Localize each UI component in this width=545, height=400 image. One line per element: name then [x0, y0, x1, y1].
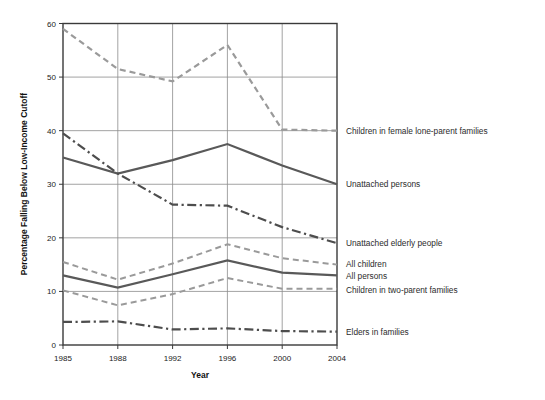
- series-label: Unattached elderly people: [346, 238, 443, 248]
- chart-figure: 0102030405060 198519881992199620002004 C…: [0, 0, 545, 400]
- y-tick-label: 0: [52, 341, 57, 350]
- y-tick-label: 50: [47, 73, 56, 82]
- x-tick-label: 2004: [328, 354, 346, 363]
- series-lines: [63, 29, 337, 332]
- y-tick-label: 10: [47, 287, 56, 296]
- x-tick-label: 1985: [54, 354, 72, 363]
- series-label: Unattached persons: [346, 179, 420, 189]
- series-line: [63, 144, 337, 184]
- y-tick-label: 30: [47, 180, 56, 189]
- x-axis-title: Year: [191, 370, 210, 380]
- x-tick-label: 1996: [219, 354, 237, 363]
- series-line: [63, 133, 337, 243]
- series-label: All persons: [346, 271, 387, 281]
- y-tick-labels: 0102030405060: [47, 20, 63, 351]
- series-label: Children in female lone-parent families: [346, 126, 488, 136]
- y-tick-label: 20: [47, 234, 56, 243]
- x-tick-label: 1992: [164, 354, 182, 363]
- series-line: [63, 260, 337, 287]
- x-tick-label: 1988: [109, 354, 127, 363]
- series-label: Children in two-parent families: [346, 285, 458, 295]
- series-line: [63, 321, 337, 331]
- x-tick-label: 2000: [273, 354, 291, 363]
- series-label: Elders in families: [346, 327, 409, 337]
- series-line: [63, 29, 337, 131]
- gridlines: [63, 24, 337, 346]
- y-tick-label: 40: [47, 127, 56, 136]
- series-labels: Children in female lone-parent familiesU…: [346, 126, 488, 337]
- y-axis-title: Percentage Falling Below Low-Income Cuto…: [19, 93, 29, 275]
- y-tick-label: 60: [47, 20, 56, 29]
- x-tick-labels: 198519881992199620002004: [54, 345, 346, 363]
- line-chart: 0102030405060 198519881992199620002004 C…: [0, 0, 545, 400]
- series-label: All children: [346, 259, 387, 269]
